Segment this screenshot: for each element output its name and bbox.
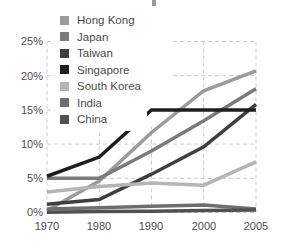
y-tick-0pct: 0% <box>3 206 43 218</box>
y-tick-20pct: 20% <box>3 70 43 82</box>
legend-item-india: India <box>60 95 141 112</box>
legend-label: South Korea <box>77 80 141 92</box>
legend-label: China <box>77 113 107 125</box>
legend-label: Singapore <box>77 64 129 76</box>
legend-label: Hong Kong <box>77 14 135 26</box>
legend-label: India <box>77 97 102 109</box>
y-tick-10pct: 10% <box>3 138 43 150</box>
series-line-china <box>47 210 256 212</box>
x-tick-1980: 1980 <box>79 220 119 232</box>
legend-swatch-icon <box>60 32 69 41</box>
y-tick-5pct: 5% <box>3 172 43 184</box>
x-tick-2000: 2000 <box>184 220 224 232</box>
series-line-india <box>47 205 256 209</box>
x-tick-1990: 1990 <box>131 220 171 232</box>
legend-item-japan: Japan <box>60 29 141 46</box>
legend-item-singapore: Singapore <box>60 62 141 79</box>
legend-swatch-icon <box>60 49 69 58</box>
legend-item-south-korea: South Korea <box>60 78 141 95</box>
chart-legend: Hong Kong Japan Taiwan Singapore South K… <box>57 9 147 131</box>
y-tick-15pct: 15% <box>3 104 43 116</box>
y-tick-25pct: 25% <box>3 35 43 47</box>
x-tick-1970: 1970 <box>27 220 67 232</box>
legend-swatch-icon <box>60 65 69 74</box>
legend-swatch-icon <box>60 16 69 25</box>
legend-item-china: China <box>60 111 141 128</box>
line-chart: 0% 5% 10% 15% 20% 25% 1970 1980 1990 200… <box>0 0 281 250</box>
legend-swatch-icon <box>60 82 69 91</box>
legend-label: Taiwan <box>77 47 113 59</box>
legend-item-taiwan: Taiwan <box>60 45 141 62</box>
legend-item-hong-kong: Hong Kong <box>60 12 141 29</box>
legend-swatch-icon <box>60 98 69 107</box>
x-tick-2005: 2005 <box>236 220 276 232</box>
legend-label: Japan <box>77 31 108 43</box>
legend-swatch-icon <box>60 115 69 124</box>
